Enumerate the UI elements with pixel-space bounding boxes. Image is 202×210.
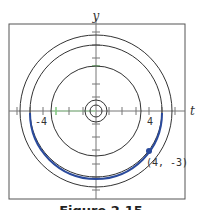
phase-diagram: y t -4 4 (4, -3) — [0, 0, 202, 210]
figure-caption: Figure 2.15 — [0, 203, 202, 210]
point-label: (4, -3) — [146, 157, 188, 168]
tick-label-neg4: -4 — [35, 116, 47, 127]
y-axis-label: y — [92, 9, 100, 23]
tick-label-4: 4 — [147, 116, 153, 127]
t-axis-label: t — [190, 104, 195, 118]
initial-point — [146, 148, 152, 154]
